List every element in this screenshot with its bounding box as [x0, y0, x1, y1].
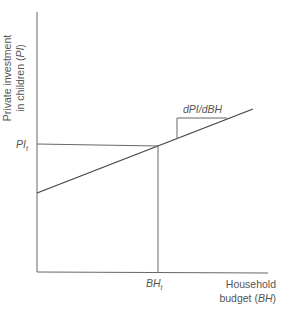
x-axis-label: Household budget (BH)	[219, 277, 276, 305]
x-axis	[37, 272, 268, 273]
slope-label: dPI/dBH	[183, 103, 222, 115]
bh-t-tick-label: BHt	[146, 277, 163, 294]
y-axis-label: Private investment in children (PI)	[2, 8, 26, 148]
pi-t-tick-label: PIt	[16, 138, 28, 155]
budget-investment-line	[37, 109, 253, 193]
pi-t-guide-line	[37, 144, 158, 146]
diagram-canvas	[0, 0, 284, 317]
